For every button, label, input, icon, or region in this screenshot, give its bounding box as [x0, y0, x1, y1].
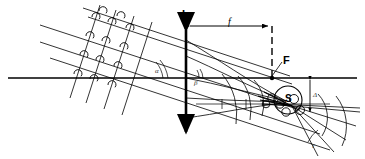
focal-plane-dashed [270, 26, 274, 80]
focal-length-label: f [228, 17, 231, 27]
focus-leader-line [272, 62, 282, 76]
angle-gamma-label: γ [312, 142, 315, 149]
grating-cross-lines [70, 5, 152, 115]
offset-label: Δ [313, 92, 317, 99]
diagram-svg [0, 0, 365, 159]
angle-beta-label: β [194, 80, 198, 87]
focal-point-label: F [283, 55, 290, 66]
source-spot-label: S [285, 94, 292, 104]
wavefront-arcs-right [318, 94, 346, 146]
angle-alpha-label: α [155, 68, 159, 75]
lens-label: L [182, 9, 189, 20]
figure-canvas: L f F S α β Δ γ [0, 0, 365, 159]
